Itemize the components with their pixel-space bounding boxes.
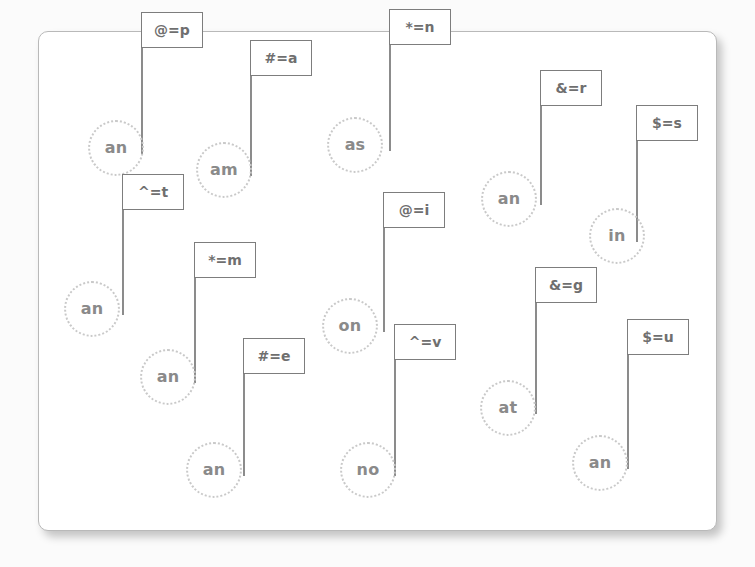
node-circle-an[interactable]: an: [64, 281, 120, 337]
node-circle-am[interactable]: am: [196, 142, 252, 198]
flag-label: #=e: [258, 349, 291, 363]
flag-label: @=p: [154, 23, 190, 37]
node-label: an: [203, 462, 226, 478]
node-label: an: [498, 191, 521, 207]
flag-box-^=t[interactable]: ^=t: [122, 174, 184, 210]
node-label: an: [105, 140, 128, 156]
node-circle-an[interactable]: an: [481, 171, 537, 227]
flag-label: $=u: [642, 330, 673, 344]
flag-box-^=v[interactable]: ^=v: [394, 324, 456, 360]
flag-box-$=u[interactable]: $=u: [627, 319, 689, 355]
flag-box-&=r[interactable]: &=r: [540, 70, 602, 106]
flag-label: #=a: [265, 51, 298, 65]
flag-label: *=m: [208, 253, 242, 267]
node-circle-an[interactable]: an: [572, 435, 628, 491]
node-label: an: [81, 301, 104, 317]
flag-label: $=s: [652, 116, 682, 130]
flag-label: *=n: [405, 20, 434, 34]
node-label: on: [339, 318, 362, 334]
node-circle-an[interactable]: an: [140, 349, 196, 405]
node-circle-on[interactable]: on: [322, 298, 378, 354]
node-label: an: [157, 369, 180, 385]
node-circle-no[interactable]: no: [340, 442, 396, 498]
flag-label: ^=t: [138, 185, 168, 199]
flag-box-$=s[interactable]: $=s: [636, 105, 698, 141]
node-label: am: [210, 162, 238, 178]
flag-box-#=a[interactable]: #=a: [250, 40, 312, 76]
flag-box-&=g[interactable]: &=g: [535, 267, 597, 303]
flag-label: &=r: [556, 81, 587, 95]
node-label: as: [345, 137, 366, 153]
flag-label: @=i: [399, 203, 430, 217]
flag-box-@=i[interactable]: @=i: [383, 192, 445, 228]
node-circle-as[interactable]: as: [327, 117, 383, 173]
node-label: in: [608, 228, 625, 244]
node-label: no: [357, 462, 380, 478]
flag-box-*=m[interactable]: *=m: [194, 242, 256, 278]
flag-label: ^=v: [409, 335, 442, 349]
node-circle-an[interactable]: an: [186, 442, 242, 498]
flag-box-#=e[interactable]: #=e: [243, 338, 305, 374]
flag-box-@=p[interactable]: @=p: [141, 12, 203, 48]
node-circle-at[interactable]: at: [480, 380, 536, 436]
node-label: at: [499, 400, 518, 416]
node-label: an: [589, 455, 612, 471]
node-circle-an[interactable]: an: [88, 120, 144, 176]
flag-label: &=g: [549, 278, 583, 292]
node-circle-in[interactable]: in: [589, 208, 645, 264]
flag-box-*=n[interactable]: *=n: [389, 9, 451, 45]
